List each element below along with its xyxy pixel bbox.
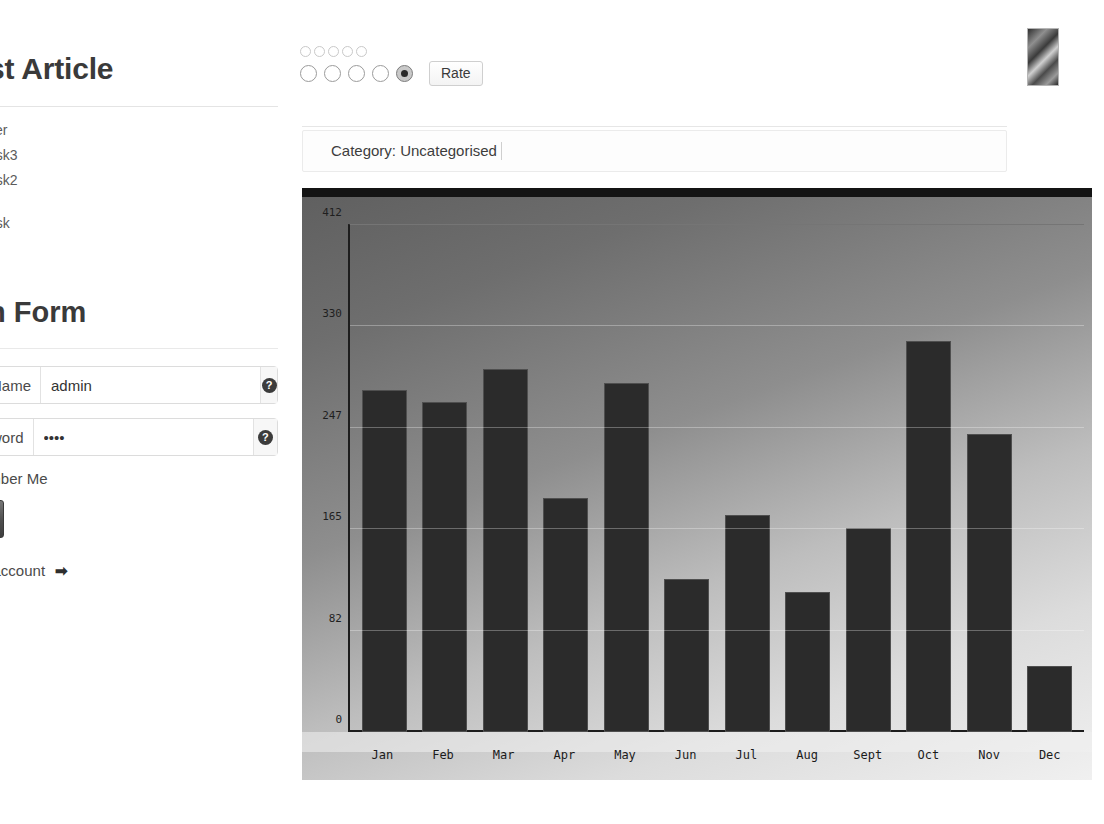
divider-form [0,348,278,349]
rating-radio-2[interactable] [324,65,341,82]
chart-bar-jun [664,579,709,732]
page-title: st Article [0,52,113,86]
category-bar: Category: Uncategorised [302,130,1007,172]
chart-ytick-label: 247 [322,409,342,422]
login-submit-button[interactable] [0,500,4,538]
chart-bar-jan [362,390,407,732]
chart-bar-dec [1027,666,1072,732]
chart-xtick-label: Nov [959,748,1020,762]
chart-bar-cell [838,225,899,732]
chart-ytick-label: 165 [322,509,342,522]
article-thumbnail-image [1027,28,1059,86]
chart-bars [350,225,1084,732]
chart-bar-cell [354,225,415,732]
chart-ytick-label: 330 [322,306,342,319]
chart-xtick-label: Aug [777,748,838,762]
chart-bar-cell [536,225,597,732]
circle-icon [314,46,325,57]
chart-xtick-label: Jan [352,748,413,762]
chart-bar-mar [483,369,528,732]
chart-bar-cell [657,225,718,732]
chart-xtick-label: Feb [413,748,474,762]
rate-button[interactable]: Rate [429,61,483,86]
password-help-addon[interactable]: ? [253,419,277,455]
chart-xtick-label: Mar [473,748,534,762]
username-field-row: Name ? [0,366,278,404]
rating-radio-4[interactable] [372,65,389,82]
chart-xtick-label: Jul [716,748,777,762]
circle-icon [300,46,311,57]
username-label: Name [0,367,41,403]
chart-xtick-label: Sept [837,748,898,762]
chart-plot-area: 082165247330412 [348,224,1084,732]
circle-icon [342,46,353,57]
chart-bar-apr [543,498,588,732]
arrow-right-icon: ➡ [55,562,68,579]
rating-preview-circles [300,46,483,57]
divider-top [0,106,278,107]
chart-gridline [350,528,1084,529]
chart-gridline [350,325,1084,326]
create-account-label: n account [0,562,45,579]
chart-ytick-label: 82 [329,612,342,625]
category-label: Category: Uncategorised [303,142,502,160]
circle-icon [328,46,339,57]
username-help-addon[interactable]: ? [260,367,277,403]
chart-ytick-label: 0 [335,713,342,726]
chart-gridline [350,630,1084,631]
chart-bar-cell [778,225,839,732]
rating-radio-3[interactable] [348,65,365,82]
username-input[interactable] [41,367,260,403]
chart-bar-cell [899,225,960,732]
chart-bar-cell [1020,225,1081,732]
chart-bar-may [604,383,649,732]
chart-bar-jul [725,515,770,732]
chart-xtick-label: May [595,748,656,762]
list-item[interactable]: ask [0,211,288,236]
list-item[interactable]: ask3 [0,143,288,168]
rating-radio-1[interactable] [300,65,317,82]
chart-bar-cell [959,225,1020,732]
password-input[interactable] [34,419,253,455]
task-list: ker ask3 ask2 ask [0,118,288,236]
chart-xaxis-labels: JanFebMarAprMayJunJulAugSeptOctNovDec [348,748,1084,762]
password-label: word [0,419,34,455]
chart-top-border [302,188,1092,197]
list-item[interactable]: ker [0,118,288,143]
circle-icon [356,46,367,57]
chart-bar-feb [422,402,467,732]
chart-gridline [350,224,1084,225]
list-item[interactable]: ask2 [0,168,288,193]
rating-radio-row: Rate [300,61,483,86]
help-icon: ? [262,378,277,393]
password-field-row: word ? [0,418,278,456]
page-root: st Article ker ask3 ask2 ask n Form Name… [0,0,1104,824]
chart-xtick-label: Apr [534,748,595,762]
chart-bar-oct [906,341,951,732]
chart-bar-nov [967,434,1012,732]
bar-chart: 082165247330412 JanFebMarAprMayJunJulAug… [302,188,1092,780]
login-form-title: n Form [0,296,86,329]
rating-radio-5[interactable] [396,65,413,82]
chart-bar-cell [596,225,657,732]
help-icon: ? [258,430,273,445]
rating-widget: Rate [300,46,483,86]
divider-category [302,126,1007,127]
chart-xtick-label: Jun [655,748,716,762]
chart-gridline [350,427,1084,428]
chart-ytick-label: 412 [322,206,342,219]
create-account-link[interactable]: n account ➡ [0,562,68,580]
chart-bar-cell [717,225,778,732]
chart-bar-aug [785,592,830,732]
chart-bar-cell [415,225,476,732]
chart-xtick-label: Oct [898,748,959,762]
remember-me-label: ember Me [0,470,48,487]
chart-xtick-label: Dec [1019,748,1080,762]
chart-bar-cell [475,225,536,732]
left-column: st Article ker ask3 ask2 ask n Form Name… [0,0,298,824]
